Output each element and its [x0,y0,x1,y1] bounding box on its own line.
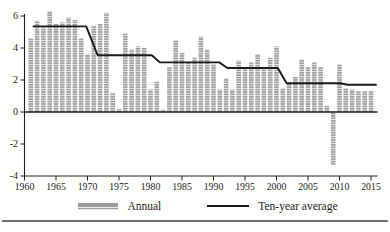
x-tick-label-1980: 1980 [141,181,161,192]
bar-1989 [205,50,210,112]
bar-2007 [318,67,323,112]
y-tick-label-4: 4 [13,42,18,53]
bar-1983 [167,67,172,112]
y-tick-label--2: -2 [10,138,18,149]
bar-2013 [356,91,361,112]
bar-1972 [98,24,103,112]
bar-chart-canvas: 6420-2-419601965197019751980198519901995… [0,0,390,232]
bar-1995 [243,67,248,112]
x-tick-label-2015: 2015 [361,181,381,192]
bar-1987 [192,58,197,112]
x-tick-label-1985: 1985 [172,181,192,192]
page-rule [2,220,388,222]
bar-1965 [54,24,59,112]
x-tick-label-2000: 2000 [267,181,287,192]
bar-1997 [255,54,260,112]
x-axis: 1960196519701975198019851990199520002005… [15,176,381,192]
bar-1968 [73,20,78,112]
bar-1990 [211,64,216,112]
bar-2014 [362,91,367,112]
bar-1998 [262,67,267,112]
bar-2002 [287,83,292,112]
x-tick-label-1995: 1995 [235,181,255,192]
bar-2011 [344,88,349,112]
bar-2006 [312,62,317,112]
bar-2000 [274,46,279,112]
bar-2012 [350,90,355,112]
x-tick-label-1975: 1975 [109,181,129,192]
bar-1991 [218,90,223,112]
y-axis: 6420-2-4 [10,10,25,181]
bar-1988 [199,37,204,112]
bar-1971 [92,26,97,112]
bar-1966 [60,22,65,112]
ten-year-average-legend-label: Ten-year average [258,200,337,212]
bar-2009 [331,112,336,165]
x-tick-label-1970: 1970 [78,181,98,192]
bar-2010 [337,64,342,112]
y-tick-label-6: 6 [13,10,18,21]
bar-1979 [142,48,147,112]
bar-1986 [186,62,191,112]
x-tick-label-1990: 1990 [204,181,224,192]
bar-1996 [249,62,254,112]
bar-1993 [230,90,235,112]
bar-2005 [306,67,311,112]
bar-1970 [85,54,90,112]
bar-1992 [224,78,229,112]
bar-2015 [369,91,374,112]
bar-2003 [293,77,298,112]
x-tick-label-2010: 2010 [330,181,350,192]
bar-1981 [155,82,160,112]
bar-1973 [104,13,109,112]
bar-1969 [79,38,84,112]
bar-1974 [110,93,115,112]
bar-1961 [29,38,34,112]
growth-chart-figure: 6420-2-419601965197019751980198519901995… [0,0,390,232]
bar-2008 [325,106,330,112]
x-tick-label-2005: 2005 [298,181,318,192]
annual-bars [29,11,374,165]
bar-2004 [299,59,304,112]
bar-1967 [66,18,71,112]
bar-1977 [129,50,134,112]
y-tick-label-0: 0 [13,106,18,117]
x-tick-label-1960: 1960 [15,181,35,192]
bar-1962 [35,21,40,112]
bar-1984 [173,40,178,112]
bar-1963 [41,27,46,112]
bar-2001 [281,88,286,112]
bar-1980 [148,90,153,112]
annual-legend-swatch [78,203,118,210]
x-tick-label-1965: 1965 [46,181,66,192]
bar-1976 [123,34,128,112]
ten-year-average-line [33,26,377,84]
ten-year-average-legend-line [207,205,249,207]
chart-legend: Annual Ten-year average [0,200,390,212]
y-tick-label-2: 2 [13,74,18,85]
bar-1999 [268,58,273,112]
annual-legend-label: Annual [127,200,161,212]
bar-1978 [136,46,141,112]
